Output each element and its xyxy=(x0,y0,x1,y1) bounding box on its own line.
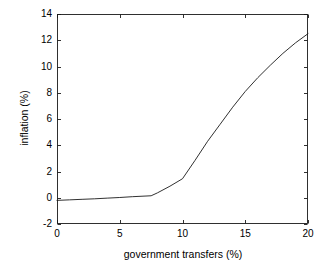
y-axis-ticks xyxy=(58,15,308,225)
x-tick-label: 5 xyxy=(105,229,135,239)
y-tick-label: 12 xyxy=(26,35,52,45)
y-axis-label: inflation (%) xyxy=(18,48,30,188)
x-tick-label: 10 xyxy=(168,229,198,239)
y-tick-label: 14 xyxy=(26,9,52,19)
x-tick-label: 20 xyxy=(293,229,323,239)
x-tick-label: 15 xyxy=(230,229,260,239)
series-line-0 xyxy=(57,34,308,201)
figure-container: -202468101214 05101520 inflation (%) gov… xyxy=(0,0,329,271)
x-tick-label: 0 xyxy=(42,229,72,239)
x-axis-ticks xyxy=(58,15,309,224)
y-tick-label: -2 xyxy=(26,219,52,229)
axes-frame xyxy=(58,15,308,224)
x-axis-label: government transfers (%) xyxy=(57,248,309,260)
data-series-group xyxy=(57,34,308,201)
y-tick-label: 0 xyxy=(26,193,52,203)
